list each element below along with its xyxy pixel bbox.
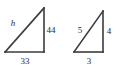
left-triangle-vertical-leg-label: 44 [47, 25, 57, 35]
right-triangle-horizontal-leg-label: 3 [87, 56, 92, 66]
geometry-figure: h 44 33 5 4 3 [0, 0, 120, 72]
figure-background [0, 0, 120, 72]
right-triangle-vertical-leg-label: 4 [107, 26, 112, 36]
triangles-svg-canvas: h 44 33 5 4 3 [0, 0, 120, 72]
left-triangle-hypotenuse-label: h [11, 18, 16, 28]
right-triangle-hypotenuse-label: 5 [78, 25, 83, 35]
left-triangle-horizontal-leg-label: 33 [21, 56, 31, 66]
